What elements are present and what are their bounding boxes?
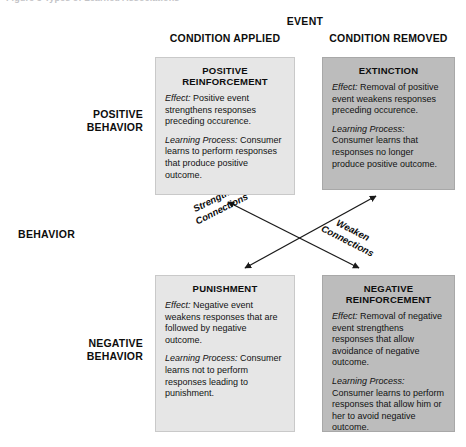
quadrant-punishment: PUNISHMENT Effect: Negative event weaken…: [155, 275, 295, 432]
effect-label: Effect:: [332, 311, 358, 321]
learning-process-label: Learning Process:: [165, 353, 238, 363]
quadrant-negative-reinforcement: NEGATIVE REINFORCEMENT Effect: Removal o…: [322, 275, 455, 432]
row-header-positive-behavior-line2: BEHAVIOR: [87, 121, 143, 134]
quadrant-positive-reinforcement: POSITIVE REINFORCEMENT Effect: Positive …: [155, 57, 295, 195]
row-header-positive-behavior: POSITIVE BEHAVIOR: [87, 108, 143, 134]
row-header-negative-behavior-line2: BEHAVIOR: [87, 350, 143, 363]
quadrant-punishment-title-line1: PUNISHMENT: [165, 283, 285, 294]
quadrant-negative-reinforcement-title-line1: NEGATIVE: [332, 283, 445, 294]
quadrant-positive-reinforcement-title-line2: REINFORCEMENT: [165, 76, 285, 87]
learning-process-label: Learning Process:: [165, 135, 238, 145]
quadrant-extinction: EXTINCTION Effect: Removal of positive e…: [322, 57, 455, 190]
quadrant-punishment-learning: Learning Process: Consumer learns not to…: [165, 353, 285, 399]
column-header-condition-removed: CONDITION REMOVED: [322, 32, 455, 44]
effect-label: Effect:: [332, 82, 358, 92]
learning-process-text: Consumer learns to perform responses tha…: [332, 388, 444, 433]
row-header-negative-behavior-line1: NEGATIVE: [87, 337, 143, 350]
quadrant-negative-reinforcement-title-line2: REINFORCEMENT: [332, 294, 445, 305]
quadrant-extinction-effect: Effect: Removal of positive event weaken…: [332, 82, 445, 117]
quadrant-negative-reinforcement-title: NEGATIVE REINFORCEMENT: [332, 283, 445, 305]
quadrant-negative-reinforcement-effect: Effect: Removal of negative event streng…: [332, 311, 445, 369]
effect-label: Effect:: [165, 93, 191, 103]
effect-label: Effect:: [165, 300, 191, 310]
learning-process-label: Learning Process:: [332, 124, 405, 134]
quadrant-positive-reinforcement-effect: Effect: Positive event strengthens respo…: [165, 93, 285, 128]
row-header-positive-behavior-line1: POSITIVE: [87, 108, 143, 121]
row-header-negative-behavior: NEGATIVE BEHAVIOR: [87, 337, 143, 363]
column-header-condition-applied: CONDITION APPLIED: [155, 32, 295, 44]
behavior-axis-label: BEHAVIOR: [18, 228, 75, 240]
quadrant-extinction-title: EXTINCTION: [332, 65, 445, 76]
quadrant-positive-reinforcement-title-line1: POSITIVE: [165, 65, 285, 76]
learning-process-text: Consumer learns that responses no longer…: [332, 135, 437, 168]
learning-process-label: Learning Process:: [332, 376, 405, 386]
quadrant-punishment-effect: Effect: Negative event weakens responses…: [165, 300, 285, 346]
quadrant-positive-reinforcement-title: POSITIVE REINFORCEMENT: [165, 65, 285, 87]
quadrant-extinction-title-line1: EXTINCTION: [332, 65, 445, 76]
quadrant-positive-reinforcement-learning: Learning Process: Consumer learns to per…: [165, 135, 285, 181]
quadrant-extinction-learning: Learning Process: Consumer learns that r…: [332, 124, 445, 170]
quadrant-punishment-title: PUNISHMENT: [165, 283, 285, 294]
connector-label-weaken: Weaken Connections: [320, 212, 382, 259]
event-axis-label: EVENT: [155, 15, 455, 27]
figure-caption: Figure 3 Types of Learned Associations: [6, 0, 179, 3]
figure-container: Figure 3 Types of Learned Associations E…: [0, 0, 466, 447]
quadrant-negative-reinforcement-learning: Learning Process: Consumer learns to per…: [332, 376, 445, 434]
